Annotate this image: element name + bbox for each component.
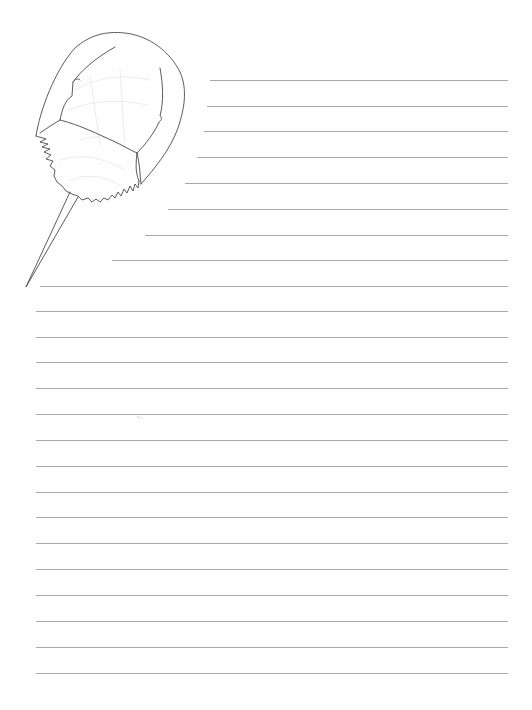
ruled-line (197, 157, 508, 158)
ruled-line (36, 337, 508, 338)
ruled-line (145, 235, 508, 236)
horseshoe-crab-icon (0, 0, 200, 295)
ruled-line (207, 106, 508, 107)
ruled-line (36, 543, 508, 544)
ruled-line (36, 647, 508, 648)
ruled-line (36, 517, 508, 518)
ruled-line (36, 311, 508, 312)
ruled-line (168, 209, 508, 210)
ruled-line (112, 260, 508, 261)
ruled-line (210, 80, 508, 81)
ruled-line (40, 286, 508, 287)
ruled-line (36, 492, 508, 493)
ruled-line (36, 621, 508, 622)
ruled-line (204, 131, 508, 132)
ruled-line (36, 569, 508, 570)
ruled-line (36, 414, 508, 415)
lined-paper-page (0, 0, 532, 710)
ruled-line (185, 183, 508, 184)
ruled-line (36, 466, 508, 467)
ruled-line (36, 388, 508, 389)
ruled-line (36, 595, 508, 596)
ruled-line (36, 362, 508, 363)
ruled-line (36, 673, 508, 674)
ruled-line (36, 440, 508, 441)
paper-speck (135, 414, 143, 421)
